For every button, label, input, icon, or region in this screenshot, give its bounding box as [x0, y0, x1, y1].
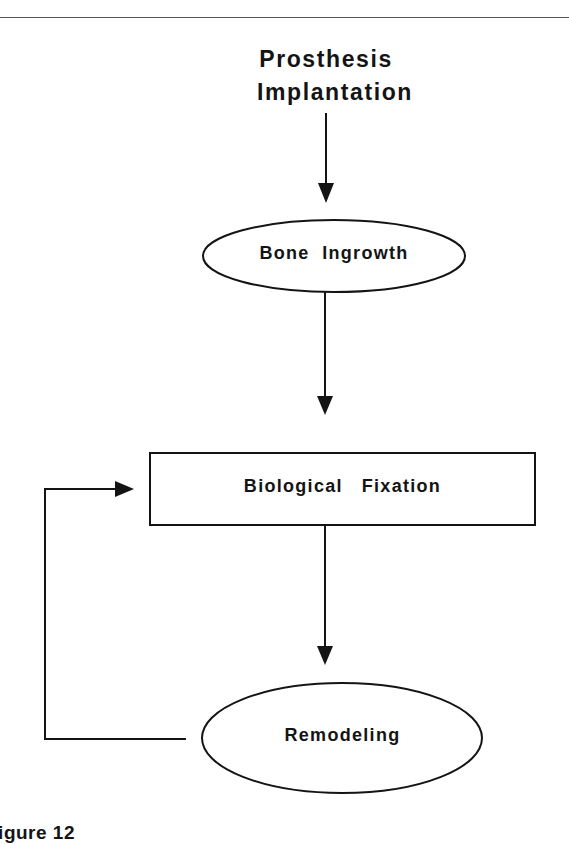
arrow-biological-fixation-to-remodeling — [317, 525, 333, 665]
arrow-bone-ingrowth-to-biological-fixation — [317, 292, 333, 415]
title-implantation: Implantation — [185, 79, 485, 106]
arrowhead-icon — [317, 396, 333, 415]
arrow-title-to-bone-ingrowth — [318, 113, 334, 203]
figure-caption: Figure 12 — [0, 822, 75, 844]
title-prosthesis: Prosthesis — [176, 46, 476, 73]
remodeling-label: Remodeling — [202, 725, 483, 746]
bone-ingrowth-label: Bone Ingrowth — [203, 243, 465, 264]
biological-fixation-label: Biological Fixation — [150, 476, 535, 497]
arrowhead-icon — [318, 183, 334, 203]
arrowhead-icon — [317, 646, 333, 665]
arrowhead-icon — [115, 481, 134, 497]
feedback-loop-arrow — [45, 481, 186, 739]
